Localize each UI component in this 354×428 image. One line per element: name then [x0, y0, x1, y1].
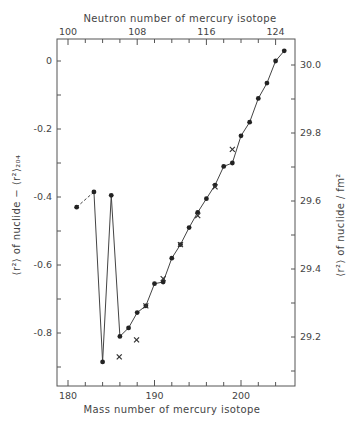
data-point — [204, 196, 209, 201]
y-tick-label: -0.2 — [33, 123, 52, 134]
data-point — [247, 120, 252, 125]
y-tick-label: -0.8 — [33, 327, 52, 338]
data-series — [74, 48, 286, 364]
data-point — [126, 326, 131, 331]
data-point — [282, 48, 287, 53]
axes: 1801902001001081161240-0.2-0.4-0.6-0.830… — [33, 26, 321, 401]
data-point — [221, 164, 226, 169]
chart: Neutron number of mercury isotope 180190… — [0, 0, 354, 428]
y-tick-label: -0.4 — [33, 191, 52, 202]
y2-axis-label: ⟨r²⟩ of nuclide / fm² — [335, 173, 346, 277]
x2-axis-label: Neutron number of mercury isotope — [83, 13, 276, 24]
cross-marker — [134, 337, 139, 342]
data-point — [100, 360, 105, 365]
y-tick-label: -0.6 — [33, 259, 52, 270]
data-point — [118, 334, 123, 339]
data-point — [265, 81, 270, 86]
data-point — [230, 161, 235, 166]
data-point — [239, 133, 244, 138]
data-point — [256, 96, 261, 101]
y2-tick-label: 29.2 — [300, 331, 321, 342]
data-point — [74, 205, 79, 210]
y-tick-label: 0 — [46, 55, 52, 66]
x2-tick-label: 108 — [128, 26, 146, 37]
data-point — [109, 193, 114, 198]
y2-tick-label: 29.8 — [300, 127, 321, 138]
data-point — [169, 256, 174, 261]
x2-tick-label: 100 — [59, 26, 77, 37]
x2-tick-label: 124 — [267, 26, 285, 37]
plot-frame — [57, 39, 295, 386]
y2-tick-label: 30.0 — [300, 59, 321, 70]
x-tick-label: 190 — [145, 390, 163, 401]
data-point — [152, 281, 157, 286]
x-axis-label: Mass number of mercury isotope — [84, 404, 261, 415]
y2-tick-label: 29.6 — [300, 195, 321, 206]
data-point — [135, 310, 140, 315]
x-tick-label: 180 — [59, 390, 77, 401]
data-point — [92, 190, 97, 195]
y2-tick-label: 29.4 — [300, 263, 321, 274]
x2-tick-label: 116 — [197, 26, 215, 37]
y-axis-label: ⟨r²⟩ of nuclide − ⟨r²⟩₂₀₄ — [11, 155, 22, 276]
cross-marker — [117, 354, 122, 359]
data-point — [187, 225, 192, 230]
data-point — [273, 59, 278, 64]
x-tick-label: 200 — [232, 390, 250, 401]
cross-marker — [230, 147, 235, 152]
